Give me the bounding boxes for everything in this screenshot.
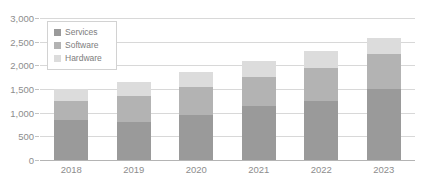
chart-legend: ServicesSoftwareHardware bbox=[47, 21, 117, 70]
bar-segment-hardware[interactable] bbox=[304, 51, 338, 68]
bar-segment-software[interactable] bbox=[179, 87, 213, 115]
y-axis-tick-label: 2,000 bbox=[10, 60, 34, 71]
y-axis-tick bbox=[35, 89, 39, 90]
bar-segment-services[interactable] bbox=[304, 101, 338, 160]
bar-segment-services[interactable] bbox=[54, 120, 88, 160]
bar-group[interactable] bbox=[117, 18, 151, 160]
bar-segment-services[interactable] bbox=[242, 106, 276, 160]
x-axis-tick-label: 2021 bbox=[248, 164, 269, 175]
y-axis-tick bbox=[35, 65, 39, 66]
bar-segment-hardware[interactable] bbox=[367, 38, 401, 54]
gridline bbox=[40, 136, 415, 137]
x-axis-tick-label: 2019 bbox=[123, 164, 144, 175]
y-axis-tick-label: 2,500 bbox=[10, 36, 34, 47]
legend-swatch-icon bbox=[54, 55, 61, 62]
legend-swatch-icon bbox=[54, 29, 61, 36]
y-axis-tick bbox=[35, 18, 39, 19]
x-axis-labels: 201820192020202120222023 bbox=[40, 164, 415, 184]
gridline bbox=[40, 18, 415, 19]
bar-segment-software[interactable] bbox=[304, 68, 338, 101]
y-axis-tick bbox=[35, 42, 39, 43]
y-axis-tick bbox=[35, 160, 39, 161]
bar-segment-hardware[interactable] bbox=[54, 89, 88, 101]
legend-swatch-icon bbox=[54, 42, 61, 49]
y-axis-tick-label: 500 bbox=[18, 131, 34, 142]
gridline bbox=[40, 113, 415, 114]
x-axis-baseline bbox=[40, 160, 415, 161]
bar-segment-hardware[interactable] bbox=[117, 82, 151, 96]
legend-item-label: Hardware bbox=[65, 53, 102, 64]
gridline bbox=[40, 89, 415, 90]
y-axis-tick bbox=[35, 136, 39, 137]
legend-item-label: Software bbox=[65, 40, 99, 51]
y-axis-tick-label: 1,500 bbox=[10, 84, 34, 95]
x-axis-tick-label: 2020 bbox=[186, 164, 207, 175]
bar-segment-services[interactable] bbox=[179, 115, 213, 160]
legend-item-label: Services bbox=[65, 27, 98, 38]
x-axis-tick-label: 2023 bbox=[373, 164, 394, 175]
bar-segment-software[interactable] bbox=[117, 96, 151, 122]
legend-item-hardware[interactable]: Hardware bbox=[54, 53, 110, 64]
bar-segment-services[interactable] bbox=[367, 89, 401, 160]
y-axis-labels: 05001,0001,5002,0002,5003,000 bbox=[0, 18, 34, 160]
bar-segment-hardware[interactable] bbox=[242, 61, 276, 78]
bar-group[interactable] bbox=[242, 18, 276, 160]
bar-segment-software[interactable] bbox=[54, 101, 88, 120]
bar-segment-hardware[interactable] bbox=[179, 72, 213, 87]
y-axis-tick-label: 3,000 bbox=[10, 13, 34, 24]
y-axis-tick-label: 1,000 bbox=[10, 107, 34, 118]
bar-group[interactable] bbox=[179, 18, 213, 160]
stacked-bar-chart: 05001,0001,5002,0002,5003,000 2018201920… bbox=[0, 0, 427, 190]
bar-segment-software[interactable] bbox=[242, 77, 276, 105]
y-axis-tick-label: 0 bbox=[29, 155, 34, 166]
bar-group[interactable] bbox=[367, 18, 401, 160]
bar-group[interactable] bbox=[304, 18, 338, 160]
bar-segment-services[interactable] bbox=[117, 122, 151, 160]
bar-segment-software[interactable] bbox=[367, 54, 401, 90]
x-axis-tick-label: 2018 bbox=[61, 164, 82, 175]
x-axis-tick-label: 2022 bbox=[311, 164, 332, 175]
legend-item-services[interactable]: Services bbox=[54, 27, 110, 38]
legend-item-software[interactable]: Software bbox=[54, 40, 110, 51]
y-axis-tick bbox=[35, 113, 39, 114]
